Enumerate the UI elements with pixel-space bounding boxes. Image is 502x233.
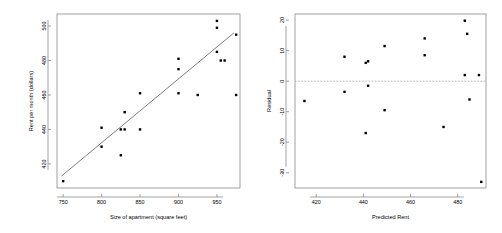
y-tick-label: 440 [41,125,47,134]
y-tick-label: 10 [279,48,285,54]
data-point [62,180,64,182]
y-axis-title: Residual [266,90,272,112]
x-axis-title: Predicted Rent [372,214,409,220]
data-point [139,128,141,130]
scatter-plot-svg: 750800850900950Size of apartment (square… [0,0,251,233]
plot-frame [295,14,486,188]
x-tick-label: 440 [359,199,368,205]
data-point [123,111,125,113]
y-tick-label: -10 [279,108,285,116]
data-point [478,74,480,76]
data-point [383,109,385,111]
residual-plot-svg: 420440460480Predicted Rent20100-10-20-30… [251,0,502,233]
data-point [365,62,367,64]
data-point [466,33,468,35]
data-point [423,54,425,56]
data-point [480,181,482,183]
x-tick-label: 480 [453,199,462,205]
data-point [303,100,305,102]
plot-frame [57,14,240,188]
y-tick-label: -30 [279,169,285,177]
data-point [365,132,367,134]
data-point [423,37,425,39]
data-point [177,68,179,70]
data-point [100,145,102,147]
y-tick-label: 420 [41,159,47,168]
data-point [123,128,125,130]
figure-root: 750800850900950Size of apartment (square… [0,0,502,233]
data-point [383,45,385,47]
data-point [216,51,218,53]
data-point [216,27,218,29]
scatter-plot-panel: 750800850900950Size of apartment (square… [0,0,251,233]
data-point [220,59,222,61]
data-point [442,126,444,128]
data-point [464,74,466,76]
x-tick-label: 420 [312,199,321,205]
residual-plot-panel: 420440460480Predicted Rent20100-10-20-30… [251,0,502,233]
data-point [197,94,199,96]
x-tick-label: 800 [97,199,106,205]
x-tick-label: 950 [212,199,221,205]
x-tick-label: 850 [136,199,145,205]
y-tick-label: -20 [279,138,285,146]
data-point [235,94,237,96]
y-tick-label: 20 [279,17,285,23]
x-axis-title: Size of apartment (square feet) [110,214,187,220]
data-point [343,56,345,58]
y-tick-label: 480 [41,56,47,65]
data-point [343,91,345,93]
data-point [235,33,237,35]
data-point [139,92,141,94]
data-point [177,92,179,94]
data-point [468,98,470,100]
y-tick-label: 500 [41,22,47,31]
y-tick-label: 460 [41,90,47,99]
data-point [120,128,122,130]
data-point [464,20,466,22]
y-tick-label: 0 [279,80,285,83]
x-tick-label: 460 [406,199,415,205]
y-axis-title: Rent per month (dollars) [28,71,34,131]
data-point [223,59,225,61]
x-tick-label: 750 [59,199,68,205]
data-point [177,58,179,60]
data-point [120,154,122,156]
x-tick-label: 900 [174,199,183,205]
regression-line [62,33,234,176]
data-point [367,60,369,62]
data-point [367,85,369,87]
data-point [216,20,218,22]
data-point [100,127,102,129]
